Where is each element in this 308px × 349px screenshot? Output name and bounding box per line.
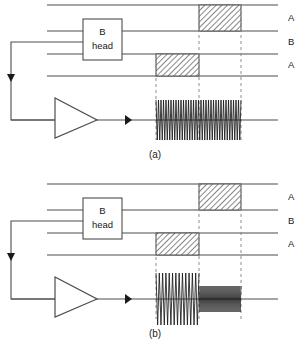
panel-b-hatch-block-upper (199, 184, 241, 210)
panel-a-caption: (a) (149, 149, 161, 160)
azimuth-recording-diagram: BheadABA(a)BheadABA(b) (0, 0, 308, 349)
panel-a-feedback-arrow-icon (7, 74, 15, 82)
panel-a-hatch-block-upper (199, 5, 241, 31)
panel-a-track-label-3: A (288, 59, 295, 70)
panel-b-hatch-block-lower (156, 233, 199, 255)
figure-root: BheadABA(a)BheadABA(b) (0, 0, 308, 349)
panel-b-track-label-2: B (288, 215, 294, 226)
panel-b-head-box-label-top: B (99, 205, 105, 216)
panel-b-track-label-1: A (288, 191, 295, 202)
panel-b-feedback-arrow-icon (7, 253, 15, 261)
panel-a-amplifier (55, 98, 97, 138)
panel-b-output-arrow-icon (125, 294, 132, 304)
panel-b-track-label-3: A (288, 238, 295, 249)
panel-b: BheadABA(b) (7, 184, 295, 339)
panel-a-head-box-label-bottom: head (92, 40, 113, 51)
panel-a-output-arrow-icon (125, 115, 132, 125)
panel-b-head-box-label-bottom: head (92, 219, 113, 230)
panel-a-track-label-2: B (288, 36, 294, 47)
panel-a: BheadABA(a) (7, 5, 295, 160)
panel-a-head-box-label-top: B (99, 26, 105, 37)
panel-a-track-label-1: A (288, 12, 295, 23)
panel-b-caption: (b) (149, 328, 161, 339)
panel-a-hatch-block-lower (156, 54, 199, 76)
panel-b-amplifier (55, 277, 97, 317)
